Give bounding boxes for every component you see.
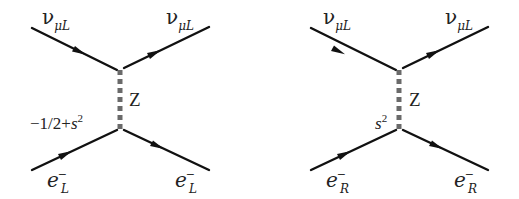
label-incoming-neutrino: νμL (42, 5, 70, 33)
outgoing-electron-line (124, 130, 209, 170)
label-incoming-electron: e−L (47, 168, 69, 196)
diagram-left: νμL νμL Z −1/2+s2 e−L e−L (30, 5, 209, 196)
label-incoming-electron: e−R (326, 168, 349, 196)
label-coupling-left: −1/2+s2 (30, 112, 83, 133)
arrow-right-icon (331, 46, 345, 55)
incoming-electron-line (311, 130, 396, 170)
incoming-neutrino-line (32, 28, 117, 70)
outgoing-electron-line (403, 130, 488, 170)
arrow-right-icon (147, 50, 161, 59)
feynman-diagrams-figure: νμL νμL Z −1/2+s2 e−L e−L (0, 0, 519, 199)
outgoing-neutrino-line (403, 27, 488, 68)
arrow-right-icon (429, 141, 443, 150)
arrow-right-icon (58, 151, 72, 160)
label-outgoing-neutrino: νμL (445, 5, 473, 33)
arrow-right-icon (72, 46, 86, 55)
arrow-right-icon (426, 50, 440, 59)
label-coupling-right: s2 (375, 112, 387, 133)
label-incoming-neutrino: νμL (323, 5, 351, 33)
arrow-right-icon (337, 151, 351, 160)
diagram-right: νμL νμL Z s2 e−R e−R (311, 5, 488, 196)
outgoing-neutrino-line (124, 27, 209, 68)
label-outgoing-electron: e−L (175, 168, 197, 196)
incoming-electron-line (32, 130, 117, 170)
label-z: Z (409, 89, 421, 110)
label-outgoing-electron: e−R (454, 168, 477, 196)
incoming-neutrino-line (311, 28, 396, 70)
arrow-right-icon (150, 141, 164, 150)
label-outgoing-neutrino: νμL (166, 5, 194, 33)
label-z: Z (129, 89, 141, 110)
